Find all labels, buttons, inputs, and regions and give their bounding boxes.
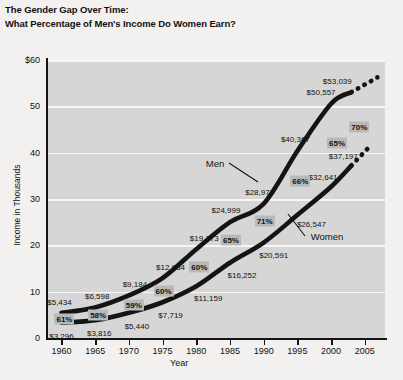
ratio-badge: 58% — [88, 309, 108, 320]
ratio-badge: 71% — [255, 216, 275, 227]
x-tick-mark — [331, 340, 333, 345]
y-tick-label: 30 — [0, 194, 40, 204]
data-value-label: $6,598 — [85, 292, 109, 301]
data-value-label: $53,039 — [323, 77, 352, 86]
leader-line-men — [229, 163, 258, 182]
y-tick-label: 50 — [0, 101, 40, 111]
data-value-label: $40,367 — [281, 134, 310, 143]
ratio-badge: 60% — [154, 286, 174, 297]
y-tick-label: 20 — [0, 240, 40, 250]
series-label-men: Men — [206, 158, 224, 169]
ratio-badge: 70% — [349, 121, 369, 132]
data-value-label: $3,816 — [87, 329, 111, 338]
x-tick-mark — [230, 340, 232, 345]
data-value-label: $24,999 — [212, 206, 241, 215]
data-value-label: $50,557 — [307, 87, 336, 96]
data-value-label: $9,184 — [123, 280, 147, 289]
data-value-label: $5,440 — [125, 321, 149, 330]
ratio-badge: 65% — [327, 138, 347, 149]
chart-container: Income in Thousands Year 01020304050$601… — [0, 0, 403, 380]
series-projection-men — [351, 77, 377, 92]
x-tick-mark — [61, 340, 63, 345]
ratio-badge: 66% — [290, 175, 310, 186]
data-value-label: $16,252 — [228, 270, 257, 279]
data-value-label: $5,434 — [47, 297, 71, 306]
ratio-badge: 61% — [54, 313, 74, 324]
x-tick-mark — [95, 340, 97, 345]
data-value-label: $7,719 — [158, 311, 182, 320]
data-value-label: $37,197 — [329, 151, 358, 160]
data-value-label: $12,934 — [156, 263, 185, 272]
x-tick-mark — [196, 340, 198, 345]
ratio-badge: 65% — [221, 235, 241, 246]
x-tick-mark — [129, 340, 131, 345]
ratio-badge: 60% — [189, 261, 209, 272]
series-label-women: Women — [311, 231, 344, 242]
data-value-label: $19,173 — [190, 234, 219, 243]
y-tick-label: 0 — [0, 333, 40, 343]
y-tick-label: 40 — [0, 148, 40, 158]
x-tick-mark — [297, 340, 299, 345]
x-tick-mark — [264, 340, 266, 345]
data-value-label: $32,641 — [309, 172, 338, 181]
data-value-label: $26,547 — [297, 219, 326, 228]
data-value-label: $3,296 — [49, 331, 73, 340]
ratio-badge: 59% — [124, 300, 144, 311]
data-value-label: $28,979 — [245, 187, 274, 196]
y-tick-label: 10 — [0, 287, 40, 297]
x-tick-mark — [365, 340, 367, 345]
x-tick-label: 2005 — [345, 346, 385, 356]
data-value-label: $11,159 — [194, 294, 222, 303]
x-tick-mark — [163, 340, 165, 345]
data-value-label: $20,591 — [259, 250, 288, 259]
y-tick-label: $60 — [0, 55, 40, 65]
